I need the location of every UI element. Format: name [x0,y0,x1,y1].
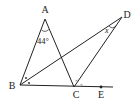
point-label-C: C [73,89,80,100]
geometry-diagram: × × 44° x A B C D E [0,0,136,102]
point-label-D: D [123,9,130,20]
bisector-dot-icon [28,82,30,84]
segment-CD [74,17,122,87]
segment-AC [45,19,74,87]
angle-arc-A [42,30,49,32]
point-label-E: E [98,89,104,100]
bisector-cross-icon: × [75,78,78,83]
point-label-B: B [9,80,16,91]
bisector-dot-icon [25,77,27,79]
point-label-A: A [41,4,49,15]
angle-label-D: x [104,26,109,35]
segment-AB [20,19,45,85]
baseline-BE [20,85,113,87]
point-E-dot [100,86,103,89]
angle-label-A: 44° [37,36,49,46]
bisector-cross-icon: × [80,82,83,87]
